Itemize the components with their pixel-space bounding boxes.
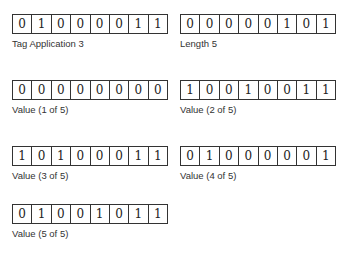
bit-cell: 0 [220, 81, 239, 99]
value-1-field: 0 0 0 0 0 0 0 0 Value (1 of 5) [12, 80, 168, 115]
bit-cell: 1 [13, 147, 32, 165]
value-3-bit-register: 1 0 1 0 0 0 1 1 [12, 146, 168, 166]
bit-cell: 1 [52, 147, 71, 165]
tag-caption: Tag Application 3 [12, 38, 168, 49]
bit-cell: 1 [297, 81, 316, 99]
bit-cell: 0 [239, 147, 258, 165]
bit-cell: 1 [129, 15, 148, 33]
bit-cell: 0 [297, 15, 316, 33]
bit-cell: 1 [32, 15, 51, 33]
bit-cell: 0 [32, 147, 51, 165]
length-caption: Length 5 [180, 38, 336, 49]
value-4-caption: Value (4 of 5) [180, 170, 336, 181]
bit-cell: 0 [32, 81, 51, 99]
bit-cell: 0 [13, 81, 32, 99]
value-1-caption: Value (1 of 5) [12, 104, 168, 115]
tag-field: 0 1 0 0 0 0 1 1 Tag Application 3 [12, 14, 168, 49]
bit-cell: 0 [259, 15, 278, 33]
bit-cell: 0 [71, 205, 90, 223]
bit-cell: 1 [129, 205, 148, 223]
bit-cell: 1 [317, 147, 335, 165]
bit-cell: 0 [13, 205, 32, 223]
bit-cell: 0 [13, 15, 32, 33]
bit-cell: 0 [52, 15, 71, 33]
bit-cell: 1 [200, 147, 219, 165]
bit-cell: 1 [239, 81, 258, 99]
bit-cell: 0 [71, 81, 90, 99]
bit-cell: 0 [220, 147, 239, 165]
bit-cell: 0 [259, 147, 278, 165]
bit-cell: 1 [278, 15, 297, 33]
bit-cell: 1 [32, 205, 51, 223]
length-bit-register: 0 0 0 0 0 1 0 1 [180, 14, 336, 34]
bit-cell: 0 [91, 147, 110, 165]
bit-cell: 0 [200, 81, 219, 99]
bit-cell: 0 [297, 147, 316, 165]
value-3-field: 1 0 1 0 0 0 1 1 Value (3 of 5) [12, 146, 168, 181]
value-5-caption: Value (5 of 5) [12, 228, 168, 239]
bit-cell: 1 [91, 205, 110, 223]
bit-cell: 0 [259, 81, 278, 99]
value-2-caption: Value (2 of 5) [180, 104, 336, 115]
bit-cell: 0 [181, 15, 200, 33]
bit-cell: 0 [71, 15, 90, 33]
value-2-bit-register: 1 0 0 1 0 0 1 1 [180, 80, 336, 100]
bit-cell: 0 [200, 15, 219, 33]
value-3-caption: Value (3 of 5) [12, 170, 168, 181]
bit-cell: 1 [149, 205, 167, 223]
bit-cell: 1 [181, 81, 200, 99]
bit-cell: 0 [129, 81, 148, 99]
bit-cell: 0 [220, 15, 239, 33]
bit-cell: 0 [239, 15, 258, 33]
bit-cell: 0 [52, 81, 71, 99]
bit-cell: 0 [278, 147, 297, 165]
bit-cell: 0 [181, 147, 200, 165]
bit-cell: 0 [110, 147, 129, 165]
bit-cell: 1 [149, 147, 167, 165]
value-5-field: 0 1 0 0 1 0 1 1 Value (5 of 5) [12, 204, 168, 239]
bit-cell: 0 [110, 15, 129, 33]
value-2-field: 1 0 0 1 0 0 1 1 Value (2 of 5) [180, 80, 336, 115]
value-4-field: 0 1 0 0 0 0 0 1 Value (4 of 5) [180, 146, 336, 181]
bit-cell: 0 [71, 147, 90, 165]
bit-cell: 0 [149, 81, 167, 99]
bit-cell: 0 [278, 81, 297, 99]
tag-bit-register: 0 1 0 0 0 0 1 1 [12, 14, 168, 34]
value-1-bit-register: 0 0 0 0 0 0 0 0 [12, 80, 168, 100]
bit-cell: 1 [317, 15, 335, 33]
bit-cell: 0 [110, 81, 129, 99]
bit-cell: 1 [129, 147, 148, 165]
bit-cell: 0 [91, 15, 110, 33]
value-4-bit-register: 0 1 0 0 0 0 0 1 [180, 146, 336, 166]
bit-cell: 0 [110, 205, 129, 223]
bit-cell: 0 [91, 81, 110, 99]
bit-cell: 1 [317, 81, 335, 99]
value-5-bit-register: 0 1 0 0 1 0 1 1 [12, 204, 168, 224]
bit-cell: 1 [149, 15, 167, 33]
length-field: 0 0 0 0 0 1 0 1 Length 5 [180, 14, 336, 49]
bit-cell: 0 [52, 205, 71, 223]
